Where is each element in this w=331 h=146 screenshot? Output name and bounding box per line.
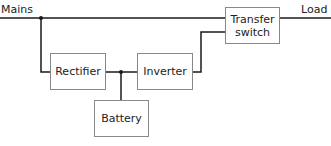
rectifier-block: Rectifier: [50, 53, 106, 90]
rectifier-label: Rectifier: [55, 65, 101, 78]
transfer-switch-block: Transfer switch: [225, 7, 280, 44]
transfer-switch-label-line2: switch: [235, 26, 270, 39]
load-label: Load: [301, 3, 327, 16]
dc-junction-dot: [119, 70, 123, 74]
inverter-block: Inverter: [137, 53, 193, 90]
battery-label: Battery: [101, 112, 142, 125]
transfer-switch-label-line1: Transfer: [230, 13, 274, 26]
mains-junction-dot: [39, 16, 43, 20]
inverter-label: Inverter: [143, 65, 187, 78]
mains-label: Mains: [1, 3, 33, 16]
battery-block: Battery: [94, 100, 149, 137]
